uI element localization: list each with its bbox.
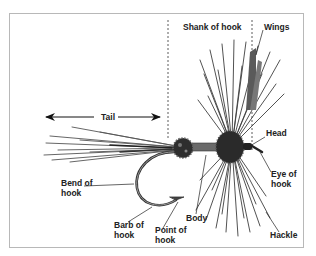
hackle-collar bbox=[216, 131, 244, 163]
eye-of-hook bbox=[252, 146, 262, 152]
label-bend-of-hook: Bend of hook bbox=[61, 178, 93, 198]
label-eye-of-hook: Eye of hook bbox=[271, 169, 297, 189]
label-barb-of-hook: Barb of hook bbox=[114, 220, 144, 240]
hook bbox=[137, 152, 184, 205]
label-body: Body bbox=[186, 213, 207, 223]
wings bbox=[246, 48, 262, 110]
head bbox=[243, 143, 252, 150]
label-wings: Wings bbox=[264, 22, 289, 32]
label-shank-of-hook: Shank of hook bbox=[183, 22, 242, 32]
label-hackle: Hackle bbox=[270, 230, 297, 240]
body-segment bbox=[190, 143, 218, 151]
label-point-of-hook: Point of hook bbox=[155, 225, 187, 245]
rear-dubbing bbox=[173, 138, 193, 158]
label-head: Head bbox=[266, 128, 287, 138]
label-tail: Tail bbox=[99, 112, 117, 122]
